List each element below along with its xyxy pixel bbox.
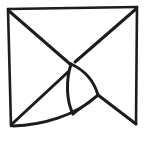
line-art-figure: Abstract line-art square with converging… <box>0 0 144 142</box>
figure-canvas <box>0 0 144 142</box>
frame-right-edge <box>136 7 137 124</box>
